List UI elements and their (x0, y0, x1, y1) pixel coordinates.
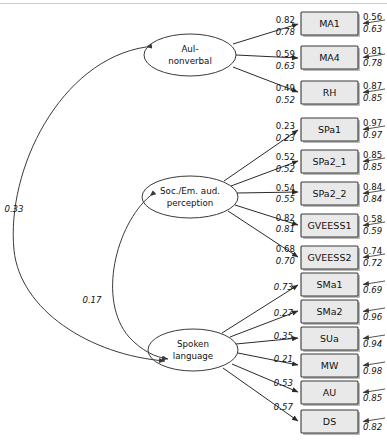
covariance-value-soc-spoken: 0.17 (82, 295, 102, 305)
residual-alt-value-spa2-2: 0.84 (363, 194, 382, 204)
latent-soc-label-2: perception (167, 198, 214, 208)
sem-path-diagram: AuI- nonverbal MA1 MA4 RH 0.82 0.78 0.59… (0, 0, 387, 443)
indicator-label: SMa2 (316, 306, 342, 317)
indicator-ma1: MA1 (301, 12, 360, 37)
covariance-curve-soc-spoken (113, 196, 168, 359)
residual-alt-value-sma2: 0.96 (363, 312, 383, 322)
loading-value-spa1: 0.23 (276, 121, 295, 131)
residual-arrow-mw (363, 362, 385, 366)
loading-value-ma1: 0.82 (276, 15, 295, 25)
latent-aui-label-2: nonverbal (168, 56, 212, 66)
residual-arrow-au (363, 389, 385, 393)
indicator-ma4: MA4 (301, 46, 360, 71)
residual-arrow-sma2 (363, 308, 385, 312)
indicator-sma1: SMa1 (301, 273, 360, 298)
loading-alt-value-sma2: 0.27 (274, 308, 294, 318)
loading-alt-value-gveess2: 0.70 (276, 256, 296, 266)
residual-alt-value-spa1: 0.97 (363, 130, 383, 140)
residual-alt-value-sma1: 0.69 (363, 285, 382, 295)
loading-alt-value-sma1: 0.73 (274, 282, 293, 292)
latent-soc-em-aud-perception: Soc./Em. aud. perception (142, 176, 238, 218)
residual-arrow-ds (363, 418, 385, 422)
residual-value-spa2-1: 0.85 (363, 150, 382, 160)
indicator-au: AU (301, 381, 360, 406)
loading-alt-value-sua: 0.35 (274, 331, 293, 341)
loading-alt-value-spa2-2: 0.55 (276, 194, 295, 204)
indicator-ds: DS (301, 410, 360, 435)
residual-alt-value-ma1: 0.63 (363, 24, 382, 34)
residual-arrow-sua (363, 335, 385, 339)
indicator-label: GVEESS1 (308, 220, 352, 231)
indicator-mw: MW (301, 354, 360, 379)
residual-value-gveess1: 0.58 (363, 214, 382, 224)
indicator-label: MA4 (319, 52, 340, 63)
latent-soc-label-1: Soc./Em. aud. (160, 186, 220, 196)
residual-alt-value-ds: 0.82 (363, 422, 382, 432)
indicator-spa2-2: SPa2_2 (301, 182, 360, 207)
latent-spoken-language: Spoken language (148, 329, 238, 371)
residual-alt-value-spa2-1: 0.85 (363, 162, 382, 172)
indicator-gveess2: GVEESS2 (301, 246, 360, 271)
loading-alt-value-rh: 0.52 (276, 95, 295, 105)
latent-aui-label-1: AuI- (181, 44, 198, 54)
loading-value-spa2-2: 0.54 (276, 183, 295, 193)
indicator-label: MW (321, 360, 339, 371)
indicator-gveess1: GVEESS1 (301, 214, 360, 239)
indicator-sma2: SMa2 (301, 300, 360, 325)
loading-alt-value-ma1: 0.78 (276, 27, 296, 37)
loading-value-spa2-1: 0.52 (276, 152, 295, 162)
latent-aui-nonverbal: AuI- nonverbal (144, 34, 236, 76)
loading-alt-value-ds: 0.57 (274, 402, 294, 412)
residual-alt-value-ma4: 0.78 (363, 58, 383, 68)
residual-value-spa1: 0.97 (363, 118, 382, 128)
covariance-value-aui-spoken: 0.33 (4, 204, 23, 214)
residual-alt-value-gveess2: 0.72 (363, 258, 382, 268)
indicator-rh: RH (301, 81, 360, 106)
indicator-label: GVEESS2 (308, 252, 352, 263)
loading-alt-value-spa2-1: 0.52 (276, 164, 295, 174)
residual-alt-value-mw: 0.98 (363, 366, 383, 376)
residual-arrow-sma1 (363, 281, 385, 285)
indicator-label: RH (323, 87, 337, 98)
indicator-label: SPa2_2 (313, 188, 347, 199)
loading-alt-value-au: 0.53 (274, 378, 293, 388)
loading-alt-value-mw: 0.21 (274, 354, 293, 364)
loading-value-rh: 0.49 (276, 83, 295, 93)
residual-alt-value-sua: 0.94 (363, 339, 382, 349)
loading-value-gveess2: 0.68 (276, 244, 295, 254)
indicator-spa1: SPa1 (301, 118, 360, 143)
loading-alt-value-spa1: 0.23 (276, 133, 295, 143)
indicator-label: AU (323, 387, 336, 398)
residual-value-rh: 0.87 (363, 81, 382, 91)
latent-ellipse (148, 329, 238, 371)
latent-spk-label-2: language (173, 351, 213, 361)
indicator-spa2-1: SPa2_1 (301, 150, 360, 175)
latent-ellipse (144, 34, 236, 76)
indicator-label: SPa2_1 (313, 156, 347, 167)
loading-alt-value-gveess1: 0.81 (276, 224, 295, 234)
loading-value-ma4: 0.59 (276, 49, 295, 59)
latent-spk-label-1: Spoken (177, 339, 209, 349)
indicator-label: DS (323, 416, 336, 427)
indicator-label: SUa (320, 333, 339, 344)
residual-alt-value-au: 0.85 (363, 393, 382, 403)
loading-value-gveess1: 0.82 (276, 213, 295, 223)
residual-value-ma4: 0.81 (363, 46, 382, 56)
loading-alt-value-ma4: 0.63 (276, 61, 295, 71)
residual-alt-value-gveess1: 0.59 (363, 226, 382, 236)
residual-value-ma1: 0.56 (363, 12, 382, 22)
indicator-sua: SUa (301, 327, 360, 352)
residual-alt-value-rh: 0.85 (363, 93, 382, 103)
indicator-label: SPa1 (318, 124, 341, 135)
indicator-label: MA1 (319, 18, 340, 29)
residual-value-spa2-2: 0.84 (363, 182, 382, 192)
indicator-label: SMa1 (316, 279, 342, 290)
latent-ellipse (142, 176, 238, 218)
residual-value-gveess2: 0.74 (363, 246, 382, 256)
